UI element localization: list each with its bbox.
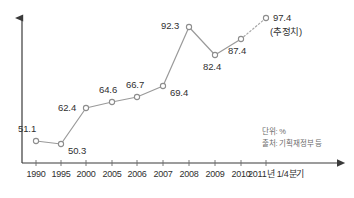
data-label-1990: 51.1	[18, 124, 36, 134]
data-label-1995: 50.3	[68, 146, 86, 156]
data-label-2008: 92.3	[161, 21, 179, 31]
series-markers	[33, 15, 268, 146]
data-point-2010	[238, 36, 243, 41]
data-label-2000: 62.4	[58, 103, 76, 113]
data-label-2005: 64.6	[99, 85, 117, 95]
data-point-2009	[212, 52, 217, 57]
data-label-2011q1: 97.4	[273, 13, 291, 23]
data-point-2007	[160, 83, 165, 88]
unit-note: 단위: %	[262, 128, 286, 136]
data-point-2011q1	[263, 15, 268, 20]
data-label-2009: 82.4	[203, 62, 221, 72]
data-label-2010: 87.4	[228, 46, 246, 56]
data-label-2006: 66.7	[126, 80, 144, 90]
data-point-2000	[83, 105, 88, 110]
series-line-estimate-dotted	[241, 18, 266, 39]
source-note: 출처: 기획재정부 등	[262, 140, 322, 148]
line-chart: 51.1 50.3 62.4 64.6 66.7 69.4 92.3 82.4 …	[0, 0, 354, 198]
x-tick-label-2011q1: 2011년 1/4분기	[248, 170, 348, 179]
data-point-2006	[134, 94, 139, 99]
data-label-2007: 69.4	[170, 88, 188, 98]
data-point-1990	[33, 138, 38, 143]
data-point-1995	[58, 141, 63, 146]
data-point-2005	[109, 99, 114, 104]
estimate-annotation: (추정치)	[270, 27, 302, 37]
data-point-2008	[186, 24, 191, 29]
